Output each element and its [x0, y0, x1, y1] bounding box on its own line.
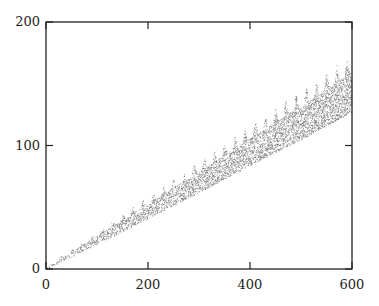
x-axis-tick-labels: 0200400600	[42, 277, 365, 292]
x-tick-label: 0	[42, 277, 50, 292]
y-tick-label: 100	[15, 138, 40, 153]
y-tick-label: 200	[15, 14, 40, 29]
y-axis-tick-labels: 0100200	[15, 14, 40, 276]
scatter-chart: 0200400600 0100200	[0, 0, 379, 306]
y-tick-label: 0	[32, 261, 40, 276]
data-points	[47, 61, 353, 269]
axis-ticks	[46, 22, 352, 269]
scatter-points	[47, 61, 353, 269]
plot-frame	[46, 22, 352, 269]
x-tick-label: 600	[340, 277, 365, 292]
x-tick-label: 400	[238, 277, 263, 292]
x-tick-label: 200	[136, 277, 161, 292]
